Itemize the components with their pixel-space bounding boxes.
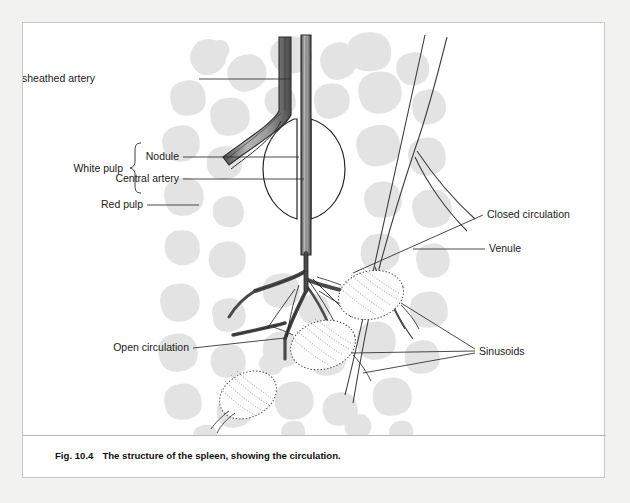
label-sinusoids: Sinusoids <box>479 345 525 357</box>
label-nodule: Nodule <box>146 150 179 162</box>
figure-caption: Fig. 10.4The structure of the spleen, sh… <box>55 450 341 461</box>
caption-bar: Fig. 10.4The structure of the spleen, sh… <box>23 435 606 477</box>
label-ensheathed-artery: Ensheathed artery <box>23 72 96 84</box>
label-venule: Venule <box>489 242 521 254</box>
spleen-diagram: Ensheathed artery White pulp Nodule Cent… <box>23 23 606 479</box>
label-closed-circulation: Closed circulation <box>487 208 570 220</box>
sinusoid-upper <box>317 264 419 329</box>
central-artery-vessel <box>301 35 311 255</box>
label-open-circulation: Open circulation <box>113 341 189 353</box>
label-red-pulp: Red pulp <box>101 198 143 210</box>
caption-title: The structure of the spleen, showing the… <box>102 450 340 461</box>
white-pulp-brace <box>130 143 141 193</box>
label-central-artery: Central artery <box>115 172 179 184</box>
figure-panel: Ensheathed artery White pulp Nodule Cent… <box>22 22 605 478</box>
caption-number: Fig. 10.4 <box>55 450 93 461</box>
